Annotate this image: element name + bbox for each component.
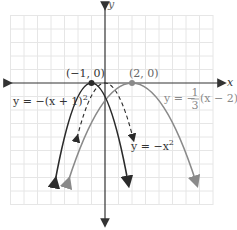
equation-label-neg-x-plus-1-squared: y = −(x + 1)2 <box>12 93 88 108</box>
vertex-point-neg1 <box>89 80 95 86</box>
svg-text:1: 1 <box>192 86 199 99</box>
svg-text:(x − 2)2: (x − 2)2 <box>200 90 237 105</box>
svg-text:3: 3 <box>192 99 199 112</box>
equation-label-neg-x-squared: y = −x2 <box>130 138 174 153</box>
point-label-neg1-0: (−1, 0) <box>66 67 105 80</box>
x-axis-label: x <box>227 76 234 89</box>
vertex-point-2 <box>129 80 135 86</box>
grid <box>10 15 213 205</box>
y-axis-label: y <box>107 0 115 11</box>
point-label-2-0: (2, 0) <box>129 67 159 80</box>
graph: y x (−1, 0) (2, 0) y = −(x + 1)2 y = −x2… <box>0 0 237 230</box>
